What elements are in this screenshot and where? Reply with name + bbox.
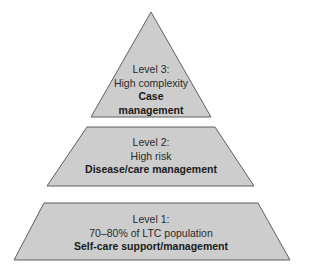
level-2-title: Disease/care management xyxy=(60,163,242,177)
level-1-title: Self-care support/management xyxy=(40,240,262,254)
level-3-title-line2: management xyxy=(96,104,206,118)
level-1-heading: Level 1: xyxy=(40,213,262,227)
level-1-label: Level 1: 70–80% of LTC population Self-c… xyxy=(40,213,262,254)
level-1-subtitle: 70–80% of LTC population xyxy=(40,227,262,241)
level-2-label: Level 2: High risk Disease/care manageme… xyxy=(60,136,242,177)
level-2-subtitle: High risk xyxy=(60,150,242,164)
level-3-subtitle: High complexity xyxy=(96,77,206,91)
level-2-heading: Level 2: xyxy=(60,136,242,150)
level-3-label: Level 3: High complexity Case management xyxy=(96,63,206,117)
level-3-heading: Level 3: xyxy=(96,63,206,77)
level-3-title-line1: Case xyxy=(96,90,206,104)
